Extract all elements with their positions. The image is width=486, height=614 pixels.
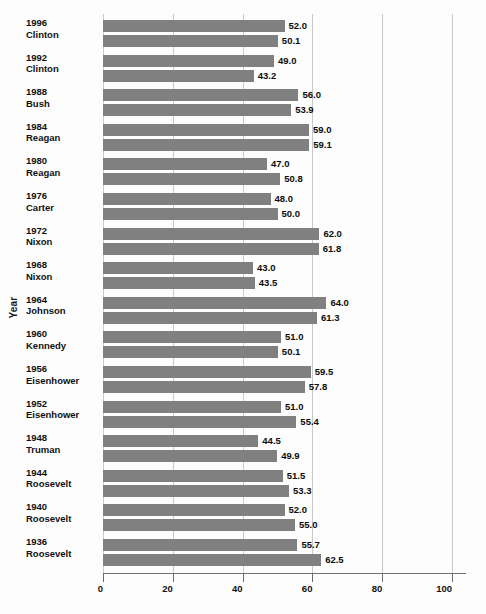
bar-value-label: 50.1: [278, 35, 301, 47]
bar-chart: Year 1996Clinton1992Clinton1988Bush1984R…: [0, 0, 486, 614]
bar: [103, 104, 291, 116]
x-tick-mark: [452, 573, 453, 582]
category-year: 1948: [26, 432, 98, 444]
category-president: Nixon: [26, 271, 98, 283]
bar-value-label: 62.5: [321, 554, 344, 566]
bar-value-label: 57.8: [305, 381, 328, 393]
x-tick-mark: [312, 573, 313, 582]
category-label: 1960Kennedy: [26, 328, 98, 351]
category-president: Roosevelt: [26, 478, 98, 490]
bar: [103, 519, 295, 531]
bar: [103, 470, 283, 482]
gridline-80: [382, 14, 383, 573]
x-tick-label: 100: [412, 583, 455, 594]
x-axis-line: [103, 573, 466, 574]
bar-value-label: 51.0: [281, 401, 304, 413]
category-label: 1956Eisenhower: [26, 363, 98, 386]
bar: [103, 243, 319, 255]
bar: [103, 124, 309, 136]
y-axis-title: Year: [4, 0, 24, 614]
category-year: 1996: [26, 17, 98, 29]
category-label: 1976Carter: [26, 190, 98, 213]
category-label: 1984Reagan: [26, 121, 98, 144]
category-year: 1988: [26, 86, 98, 98]
bar-value-label: 44.5: [258, 435, 281, 447]
category-label: 1952Eisenhower: [26, 398, 98, 421]
bar-value-label: 53.9: [291, 104, 314, 116]
category-year: 1964: [26, 294, 98, 306]
category-label: 1996Clinton: [26, 17, 98, 40]
bar: [103, 193, 271, 205]
category-year: 1972: [26, 225, 98, 237]
gridline-100: [452, 14, 453, 573]
bar-value-label: 56.0: [298, 89, 321, 101]
bar: [103, 277, 255, 289]
bar: [103, 346, 278, 358]
x-tick-label: 80: [342, 583, 385, 594]
category-year: 1944: [26, 467, 98, 479]
category-president: Kennedy: [26, 340, 98, 352]
category-year: 1976: [26, 190, 98, 202]
bar-value-label: 49.0: [274, 55, 297, 67]
category-president: Roosevelt: [26, 548, 98, 560]
bar: [103, 89, 298, 101]
category-year: 1992: [26, 52, 98, 64]
bar-value-label: 62.0: [319, 228, 342, 240]
bar: [103, 312, 317, 324]
bar: [103, 139, 309, 151]
bar-value-label: 64.0: [326, 297, 349, 309]
bar: [103, 366, 311, 378]
category-label: 1964Johnson: [26, 294, 98, 317]
bar-value-label: 43.0: [253, 262, 276, 274]
bar: [103, 70, 254, 82]
category-year: 1956: [26, 363, 98, 375]
x-tick-label: 0: [63, 583, 106, 594]
bar: [103, 20, 285, 32]
bar: [103, 173, 280, 185]
bar-value-label: 43.2: [254, 70, 277, 82]
x-tick-mark: [103, 573, 104, 582]
bar: [103, 401, 281, 413]
category-label: 1992Clinton: [26, 52, 98, 75]
bar: [103, 485, 289, 497]
bar-value-label: 51.0: [281, 331, 304, 343]
category-year: 1952: [26, 398, 98, 410]
category-label: 1980Reagan: [26, 155, 98, 178]
x-tick-mark: [243, 573, 244, 582]
category-label: 1968Nixon: [26, 259, 98, 282]
x-tick-label: 40: [203, 583, 246, 594]
category-president: Roosevelt: [26, 513, 98, 525]
bar-value-label: 52.0: [285, 504, 308, 516]
category-president: Reagan: [26, 132, 98, 144]
category-year: 1960: [26, 328, 98, 340]
category-label: 1944Roosevelt: [26, 467, 98, 490]
x-tick-label: 20: [133, 583, 176, 594]
plot-area: 52.050.149.043.256.053.959.059.147.050.8…: [103, 14, 466, 573]
bar: [103, 297, 326, 309]
x-tick-label: 60: [272, 583, 315, 594]
category-president: Carter: [26, 202, 98, 214]
bar-value-label: 50.8: [280, 173, 303, 185]
bar-value-label: 59.0: [309, 124, 332, 136]
category-year: 1984: [26, 121, 98, 133]
category-label: 1936Roosevelt: [26, 536, 98, 559]
category-president: Nixon: [26, 236, 98, 248]
bar-value-label: 61.8: [319, 243, 342, 255]
bar-value-label: 53.3: [289, 485, 312, 497]
category-president: Truman: [26, 444, 98, 456]
y-axis-title-text: Year: [9, 296, 20, 318]
bar-value-label: 51.5: [283, 470, 306, 482]
bar-value-label: 59.1: [309, 139, 332, 151]
bar: [103, 504, 285, 516]
category-president: Reagan: [26, 167, 98, 179]
bar: [103, 539, 297, 551]
bar-value-label: 50.1: [278, 346, 301, 358]
bar: [103, 450, 277, 462]
x-tick-mark: [173, 573, 174, 582]
bar-value-label: 47.0: [267, 158, 290, 170]
category-president: Bush: [26, 98, 98, 110]
category-president: Clinton: [26, 63, 98, 75]
bar: [103, 208, 278, 220]
category-year: 1940: [26, 501, 98, 513]
bar-value-label: 55.7: [297, 539, 320, 551]
